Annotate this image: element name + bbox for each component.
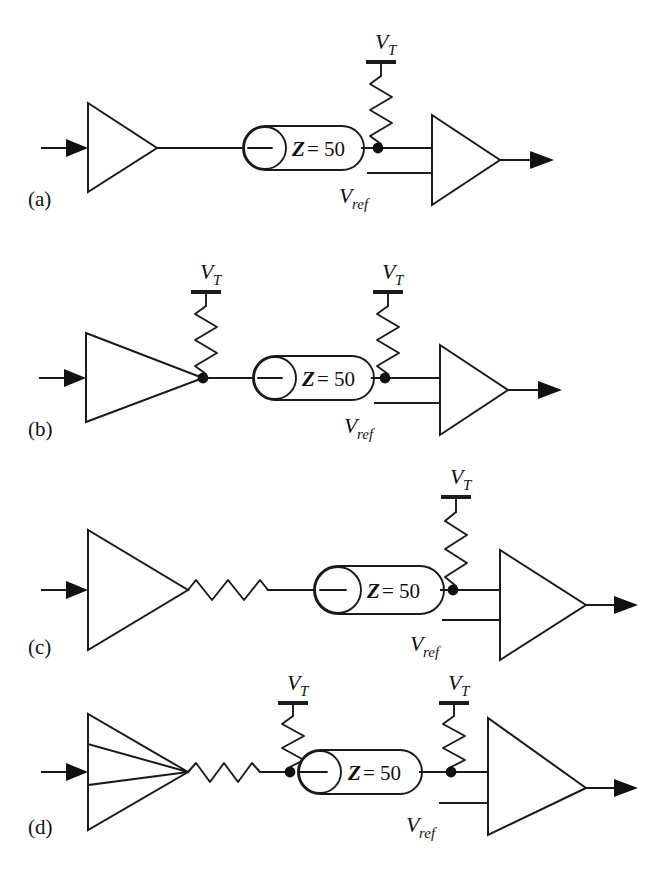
panel-b-impedance-value: = 50 <box>317 367 355 391</box>
panel-b-vref-subscript: ref <box>357 426 375 442</box>
panel-c-impedance-value: = 50 <box>382 579 420 603</box>
panel-b-impedance-symbol: Z <box>301 367 315 391</box>
panel-b-transmission-line: Z = 50 <box>253 356 374 400</box>
panel-b-label: (b) <box>28 417 53 441</box>
panel-a-transmission-line: Z = 50 <box>243 126 364 170</box>
panel-a-impedance-value: = 50 <box>307 137 345 161</box>
panel-d-load-junction-dot <box>446 767 457 778</box>
panel-a-label: (a) <box>28 187 51 211</box>
panel-a-load-junction-dot <box>373 143 384 154</box>
panel-c-load-junction-dot <box>448 585 459 596</box>
circuit-diagram-canvas: Z = 50 V T V ref (a) <box>0 0 660 881</box>
circuit-figure: Z = 50 V T V ref (a) <box>0 0 660 881</box>
panel-a-vref-subscript: ref <box>352 196 370 212</box>
panel-b-load-junction-dot <box>380 373 391 384</box>
panel-c-transmission-line: Z = 50 <box>314 566 444 614</box>
panel-d-vref-subscript: ref <box>419 825 437 841</box>
panel-c-impedance-symbol: Z <box>366 579 380 603</box>
panel-c-label: (c) <box>28 635 51 659</box>
panel-a-impedance-symbol: Z <box>291 137 305 161</box>
panel-c-vref-subscript: ref <box>423 644 441 660</box>
panel-d-transmission-line: Z = 50 <box>298 750 422 794</box>
panel-d-source-junction-dot <box>285 767 296 778</box>
panel-d-label: (d) <box>28 815 53 839</box>
panel-d-impedance-symbol: Z <box>347 761 361 785</box>
panel-d-impedance-value: = 50 <box>363 761 401 785</box>
